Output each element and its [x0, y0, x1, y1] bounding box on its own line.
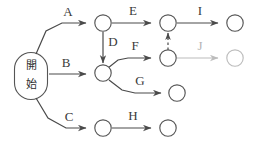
edge-A[interactable]: A — [36, 4, 86, 54]
node-n1[interactable] — [95, 15, 111, 31]
edge-A-line — [36, 23, 86, 54]
start-node-label-line1: 開 — [26, 59, 37, 72]
node-n6[interactable] — [169, 85, 185, 101]
node-n9[interactable] — [227, 50, 243, 66]
edge-I[interactable]: I — [177, 3, 218, 23]
node-n4[interactable] — [160, 15, 176, 31]
edge-J-label: J — [197, 38, 202, 53]
node-n8[interactable] — [227, 15, 243, 31]
edge-A-label: A — [63, 4, 73, 19]
edge-J[interactable]: J — [177, 38, 218, 58]
edge-F-line — [108, 58, 151, 68]
edge-E[interactable]: E — [112, 3, 151, 23]
edge-C-label: C — [65, 109, 74, 124]
edge-I-label: I — [198, 3, 202, 18]
edge-E-label: E — [129, 3, 137, 18]
node-n5[interactable] — [160, 50, 176, 66]
edge-F-label: F — [131, 38, 138, 53]
node-n7[interactable] — [160, 120, 176, 136]
start-node[interactable]: 開 始 — [15, 53, 48, 100]
diagram-canvas: 開 始 A B C D E F — [0, 0, 260, 148]
start-node-label-line2: 始 — [26, 77, 37, 91]
edge-C[interactable]: C — [36, 98, 86, 128]
node-n2[interactable] — [95, 65, 111, 81]
edge-H-label: H — [128, 108, 137, 123]
node-n3[interactable] — [95, 120, 111, 136]
edge-C-line — [36, 98, 86, 128]
edge-G[interactable]: G — [109, 73, 161, 93]
edge-G-label: G — [135, 73, 144, 88]
edge-D[interactable]: D — [103, 32, 118, 63]
graph-svg: 開 始 A B C D E F — [0, 0, 260, 148]
edge-D-label: D — [108, 34, 117, 49]
edge-H[interactable]: H — [112, 108, 151, 128]
edge-B[interactable]: B — [49, 55, 86, 74]
edge-B-label: B — [62, 55, 71, 70]
